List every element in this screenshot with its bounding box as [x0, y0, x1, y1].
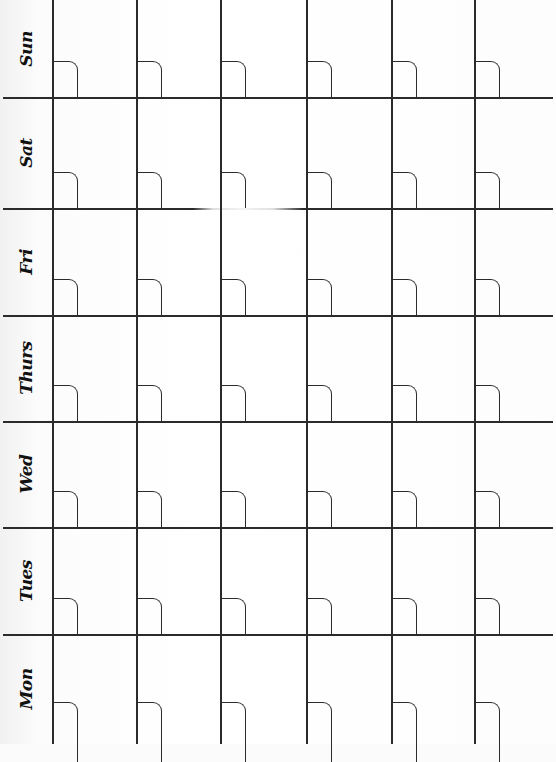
date-number-box — [392, 279, 417, 315]
date-number-box — [53, 385, 78, 421]
day-label-fri: Fri — [0, 208, 52, 315]
date-number-box — [53, 702, 78, 762]
date-number-box — [53, 279, 78, 315]
date-number-box — [307, 491, 332, 527]
grid-line-horizontal — [3, 315, 553, 317]
date-number-box — [307, 61, 332, 97]
day-label-mon: Mon — [0, 634, 52, 744]
day-label-text: Wed — [16, 455, 36, 494]
date-number-box — [137, 491, 162, 527]
date-number-box — [475, 702, 500, 762]
date-number-box — [392, 172, 417, 208]
date-number-box — [307, 385, 332, 421]
date-number-box — [475, 172, 500, 208]
day-label-sun: Sun — [0, 0, 52, 97]
date-number-box — [221, 279, 246, 315]
date-number-box — [392, 702, 417, 762]
date-number-box — [53, 598, 78, 634]
date-number-box — [392, 61, 417, 97]
day-label-text: Fri — [16, 249, 36, 275]
date-number-box — [475, 61, 500, 97]
date-number-box — [475, 598, 500, 634]
date-number-box — [307, 172, 332, 208]
day-label-sat: Sat — [0, 97, 52, 208]
date-number-box — [221, 172, 246, 208]
day-label-text: Mon — [16, 668, 36, 709]
grid-line-horizontal — [3, 208, 553, 210]
grid-line-horizontal — [3, 97, 553, 99]
date-number-box — [392, 491, 417, 527]
date-number-box — [137, 61, 162, 97]
date-number-box — [475, 491, 500, 527]
grid-line-horizontal — [3, 421, 553, 423]
date-number-box — [137, 385, 162, 421]
date-number-box — [392, 598, 417, 634]
date-number-box — [475, 279, 500, 315]
date-number-box — [221, 385, 246, 421]
day-label-text: Thurs — [16, 341, 36, 394]
date-number-box — [137, 172, 162, 208]
grid-line-horizontal — [3, 527, 553, 529]
date-number-box — [221, 491, 246, 527]
date-number-box — [307, 702, 332, 762]
date-number-box — [137, 598, 162, 634]
day-label-tues: Tues — [0, 527, 52, 634]
day-label-text: Tues — [16, 560, 36, 602]
date-number-box — [307, 279, 332, 315]
date-number-box — [53, 491, 78, 527]
date-number-box — [221, 61, 246, 97]
date-number-box — [137, 279, 162, 315]
date-number-box — [392, 385, 417, 421]
date-number-box — [475, 385, 500, 421]
date-number-box — [221, 702, 246, 762]
date-number-box — [53, 61, 78, 97]
date-number-box — [307, 598, 332, 634]
grid-line-horizontal — [3, 634, 553, 636]
day-label-wed: Wed — [0, 421, 52, 527]
date-number-box — [221, 598, 246, 634]
date-number-box — [53, 172, 78, 208]
date-number-box — [137, 702, 162, 762]
day-label-thurs: Thurs — [0, 315, 52, 421]
day-label-text: Sat — [16, 138, 36, 168]
day-label-text: Sun — [16, 31, 36, 67]
